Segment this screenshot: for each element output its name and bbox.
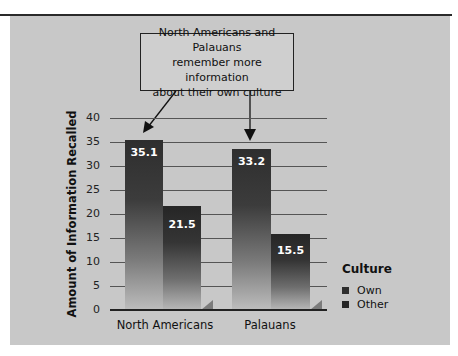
gridline (110, 118, 327, 119)
y-tick: 25 (80, 183, 100, 196)
bar-value: 15.5 (271, 244, 310, 257)
bar-north-americans-other: 21.5 (163, 206, 201, 310)
legend-swatch (342, 301, 349, 308)
y-tick: 30 (80, 159, 100, 172)
x-axis (110, 309, 327, 311)
arrow-head-icon (244, 129, 256, 141)
y-tick: 5 (80, 279, 100, 292)
y-axis-label: Amount of Information Recalled (65, 110, 79, 317)
x-category-label: Palauans (230, 318, 310, 332)
y-tick: 40 (80, 111, 100, 124)
y-tick: 15 (80, 231, 100, 244)
bar-palauans-other: 15.5 (271, 234, 310, 310)
y-tick: 10 (80, 255, 100, 268)
bar-value: 33.2 (232, 155, 271, 168)
legend-swatch (342, 287, 349, 294)
legend-title: Culture (342, 262, 392, 276)
x-category-label: North Americans (110, 318, 220, 332)
legend-label: Own (357, 284, 382, 297)
bar-value: 21.5 (163, 218, 201, 231)
y-tick: 35 (80, 135, 100, 148)
legend-label: Other (357, 298, 388, 311)
arrow-head-icon (143, 121, 154, 133)
legend-item-other: Other (342, 298, 388, 311)
bar-north-americans-own: 35.1 (125, 140, 163, 310)
legend-item-own: Own (342, 284, 382, 297)
y-tick: 20 (80, 207, 100, 220)
bar-palauans-own: 33.2 (232, 149, 271, 310)
y-tick: 0 (80, 303, 100, 316)
bar-value: 35.1 (125, 146, 163, 159)
